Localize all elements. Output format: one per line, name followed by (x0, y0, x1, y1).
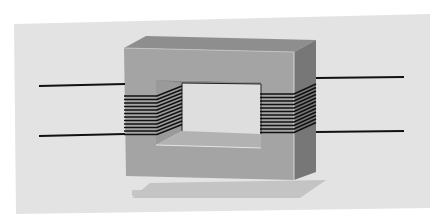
secondary-lead-top (316, 77, 404, 78)
transformer-illustration (0, 0, 444, 224)
secondary-lead-bottom (316, 131, 404, 132)
transformer-diagram (0, 0, 444, 224)
